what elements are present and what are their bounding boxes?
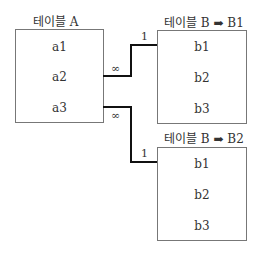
table-b2-row: b1 [158, 157, 246, 171]
table-b1-row: b2 [158, 71, 246, 85]
table-a: a1 a2 a3 [15, 29, 104, 123]
relation-2-segment [130, 106, 132, 163]
table-b2: b1 b2 b3 [157, 147, 247, 241]
table-a-row: a1 [16, 40, 103, 54]
table-b1-row: b3 [158, 102, 246, 116]
relation-2-many-label: ∞ [111, 109, 120, 122]
table-b2-title: 테이블 B ➡ B2 [164, 129, 244, 146]
table-b2-row: b2 [158, 188, 246, 202]
relation-2-segment [130, 161, 157, 163]
table-b2-row: b3 [158, 219, 246, 233]
relation-2-segment [103, 106, 132, 108]
table-b1: b1 b2 b3 [157, 30, 247, 124]
table-a-row: a3 [16, 101, 103, 115]
table-a-title: 테이블 A [33, 12, 78, 29]
relation-1-segment [103, 75, 132, 77]
relation-1-segment [130, 44, 157, 46]
table-b1-title: 테이블 B ➡ B1 [164, 13, 244, 30]
table-b1-row: b1 [158, 40, 246, 54]
relation-1-segment [130, 44, 132, 77]
relation-1-one-label: 1 [141, 30, 148, 43]
table-a-row: a2 [16, 70, 103, 84]
relation-2-one-label: 1 [141, 147, 148, 160]
relation-1-many-label: ∞ [111, 62, 120, 75]
